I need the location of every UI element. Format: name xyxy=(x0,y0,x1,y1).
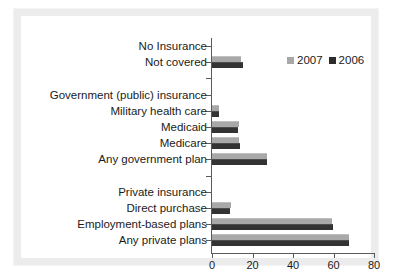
bar-row: Private insurance xyxy=(42,184,392,200)
x-axis-tick xyxy=(253,253,254,258)
x-axis-tick-label: 60 xyxy=(327,259,339,271)
x-axis-tick xyxy=(334,253,335,258)
legend-label-2007: 2007 xyxy=(297,54,323,66)
bar-row: No Insurance xyxy=(42,38,392,54)
bar-2006 xyxy=(212,159,267,165)
bar-row xyxy=(42,168,392,184)
category-label: No Insurance xyxy=(139,38,207,54)
x-axis-tick-label: 40 xyxy=(287,259,299,271)
x-axis-tick xyxy=(212,253,213,258)
bar-2006 xyxy=(212,111,219,117)
bar-row: Any government plan xyxy=(42,151,392,167)
chart-legend: 2007 2006 xyxy=(287,54,364,66)
category-label: Medicare xyxy=(160,135,207,151)
plot-area: 020406080 No InsuranceNot coveredGovernm… xyxy=(42,32,392,274)
category-label: Employment-based plans xyxy=(77,216,207,232)
bar-row: Medicaid xyxy=(42,119,392,135)
x-axis-tick-label: 0 xyxy=(209,259,215,271)
legend-label-2006: 2006 xyxy=(339,54,365,66)
bar-row: Military health care xyxy=(42,103,392,119)
category-label: Not covered xyxy=(145,54,207,70)
bar-row: Any private plans xyxy=(42,232,392,248)
bar-row xyxy=(42,70,392,86)
x-axis-tick-label: 80 xyxy=(368,259,380,271)
bar-2006 xyxy=(212,127,238,133)
category-label: Direct purchase xyxy=(126,200,207,216)
bar-2006 xyxy=(212,208,230,214)
legend-item-2007: 2007 xyxy=(287,54,323,66)
bar-2006 xyxy=(212,143,240,149)
legend-swatch-2006-icon xyxy=(329,57,336,64)
bar-row: Direct purchase xyxy=(42,200,392,216)
category-label: Military health care xyxy=(110,103,207,119)
legend-item-2006: 2006 xyxy=(329,54,365,66)
category-label: Medicaid xyxy=(161,119,207,135)
x-axis-tick-label: 20 xyxy=(246,259,258,271)
category-label: Any private plans xyxy=(119,232,207,248)
x-axis-tick xyxy=(293,253,294,258)
bar-row: Employment-based plans xyxy=(42,216,392,232)
x-axis-tick xyxy=(374,253,375,258)
category-label: Government (public) insurance xyxy=(50,87,207,103)
bar-2006 xyxy=(212,62,243,68)
bar-row: Medicare xyxy=(42,135,392,151)
figure: 020406080 No InsuranceNot coveredGovernm… xyxy=(0,0,400,280)
category-label: Any government plan xyxy=(98,151,207,167)
category-label: Private insurance xyxy=(118,184,207,200)
bar-2006 xyxy=(212,240,349,246)
legend-swatch-2007-icon xyxy=(287,57,294,64)
chart-frame: 020406080 No InsuranceNot coveredGovernm… xyxy=(14,9,378,265)
bar-2006 xyxy=(212,224,333,230)
bar-row: Government (public) insurance xyxy=(42,87,392,103)
